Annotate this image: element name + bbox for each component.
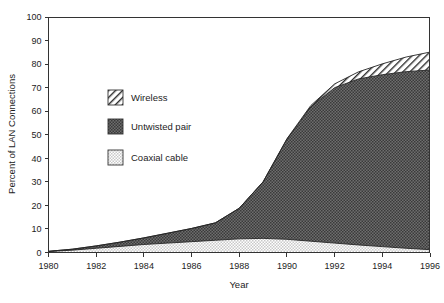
y-tick-label: 10 [31,224,41,234]
x-tick-label: 1988 [229,261,249,271]
area-chart: 0102030405060708090100 19801982198419861… [0,0,444,303]
legend-item-untwisted-pair: Untwisted pair [108,119,191,134]
x-tick-label: 1986 [182,261,202,271]
x-tick-label: 1990 [277,261,297,271]
legend-swatch-untwisted-pair [108,119,123,134]
y-tick-label: 60 [31,106,41,116]
y-tick-label: 50 [31,130,41,140]
y-axis-title: Percent of LAN Connections [6,74,17,194]
x-tick-label: 1980 [38,261,58,271]
chart-container: 0102030405060708090100 19801982198419861… [0,0,444,303]
x-axis-title: Year [229,279,248,290]
legend-label-coaxial-cable: Coaxial cable [131,152,188,163]
y-tick-label: 90 [31,36,41,46]
x-tick-label: 1994 [372,261,392,271]
y-tick-label: 20 [31,201,41,211]
legend-item-wireless: Wireless [108,90,168,105]
y-tick-label: 80 [31,59,41,69]
legend-swatch-wireless [108,90,123,105]
x-tick-label: 1982 [86,261,106,271]
y-tick-label: 30 [31,177,41,187]
y-tick-label: 70 [31,83,41,93]
y-tick-label: 100 [26,12,41,22]
x-tick-label: 1996 [420,261,440,271]
legend-item-coaxial-cable: Coaxial cable [108,150,188,165]
y-tick-label: 0 [36,248,41,258]
legend-label-wireless: Wireless [131,92,168,103]
x-axis: 198019821984198619881990199219941996 [38,253,440,271]
x-tick-label: 1984 [134,261,154,271]
x-tick-label: 1992 [325,261,345,271]
y-tick-label: 40 [31,154,41,164]
legend-label-untwisted-pair: Untwisted pair [131,121,191,132]
legend-swatch-coaxial-cable [108,150,123,165]
y-axis: 0102030405060708090100 [26,12,48,258]
